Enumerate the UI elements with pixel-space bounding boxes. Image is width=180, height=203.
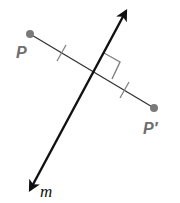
point-p xyxy=(26,30,34,38)
label-p-prime: P′ xyxy=(143,120,159,137)
segment-p-p-prime xyxy=(30,34,154,108)
line-m xyxy=(30,11,126,190)
right-angle-marker xyxy=(104,53,120,79)
reflection-diagram: P P′ m xyxy=(0,0,180,203)
point-p-prime xyxy=(150,104,158,112)
tick-mark-right xyxy=(120,82,129,98)
label-m: m xyxy=(40,182,52,201)
label-p: P xyxy=(16,44,27,61)
tick-mark-left xyxy=(57,45,66,61)
